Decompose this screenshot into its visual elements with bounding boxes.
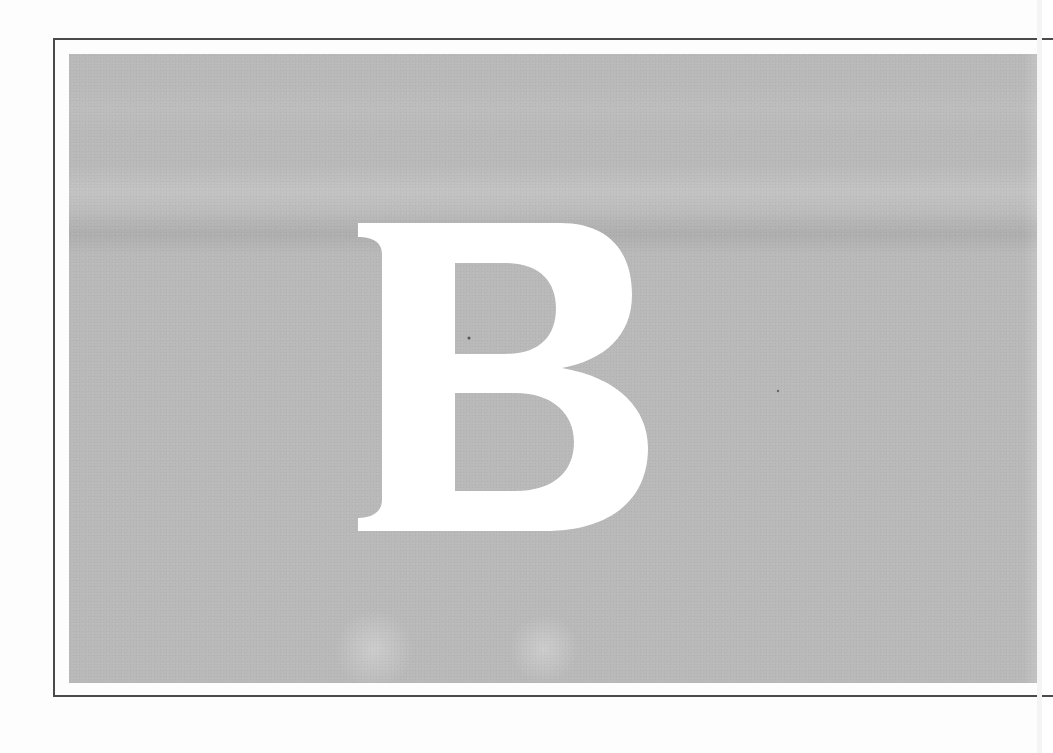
right-edge-fade: [1023, 54, 1037, 683]
gray-textured-panel: [69, 54, 1037, 683]
page-edge: [1037, 0, 1042, 753]
halftone-texture: [69, 54, 1037, 683]
